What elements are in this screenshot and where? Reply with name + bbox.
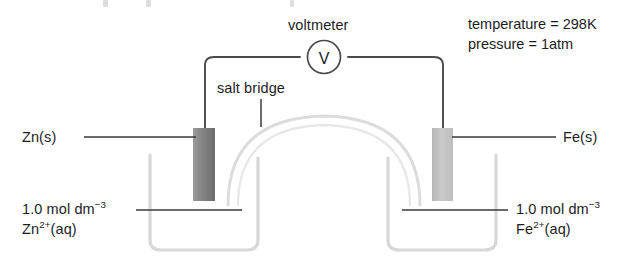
iron-electrode <box>432 128 453 201</box>
iron-solution-label: 1.0 mol dm−3 <box>516 200 600 219</box>
cell-diagram-canvas: V voltmeter salt bridge temperature = 2 <box>0 0 644 267</box>
temperature-condition: temperature = 298K <box>468 14 597 35</box>
zinc-solution-concentration-exponent: −3 <box>95 199 106 210</box>
zinc-electrode <box>193 128 215 201</box>
zinc-species-charge: 2+ <box>39 219 50 230</box>
zinc-electrode-label: Zn(s) <box>22 128 56 147</box>
wire-right <box>348 57 443 136</box>
iron-species-charge: 2+ <box>533 219 544 230</box>
salt-bridge-label: salt bridge <box>217 79 285 98</box>
iron-species-label: Fe2+(aq) <box>516 220 571 239</box>
voltmeter-symbol: V <box>319 50 330 67</box>
iron-species-symbol: Fe <box>516 221 533 237</box>
zinc-solution-label: 1.0 mol dm−3 <box>22 200 106 219</box>
zinc-species-symbol: Zn <box>22 221 39 237</box>
iron-species-state: (aq) <box>545 221 571 237</box>
iron-solution-concentration-exponent: −3 <box>589 199 600 210</box>
zinc-species-label: Zn2+(aq) <box>22 220 77 239</box>
salt-bridge-arc-inner <box>238 125 410 205</box>
pressure-condition: pressure = 1atm <box>468 34 573 55</box>
voltmeter-label: voltmeter <box>288 16 349 35</box>
iron-solution-concentration: 1.0 mol dm <box>516 201 589 217</box>
iron-electrode-label: Fe(s) <box>563 128 597 147</box>
zinc-solution-concentration: 1.0 mol dm <box>22 201 95 217</box>
zinc-species-state: (aq) <box>51 221 77 237</box>
